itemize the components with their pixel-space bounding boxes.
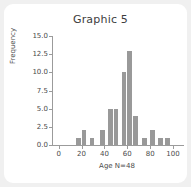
x-axis-tick-label: 80 — [138, 150, 162, 158]
histogram-bar — [158, 138, 163, 145]
y-axis-tick-label: 7.5 — [4, 87, 48, 95]
x-axis-tick-mark — [82, 146, 83, 149]
x-axis-tick-mark — [173, 146, 174, 149]
plot-area — [53, 36, 181, 145]
histogram-bar — [90, 138, 95, 145]
histogram-bar — [127, 51, 132, 145]
y-axis-tick-label: 5.0 — [4, 105, 48, 113]
x-axis-tick-mark — [127, 146, 128, 149]
x-axis-line — [52, 145, 184, 146]
y-axis-label: Frequency — [9, 11, 17, 81]
y-axis-tick-mark — [49, 109, 52, 110]
histogram-bar — [122, 72, 127, 145]
y-axis-tick-mark — [49, 91, 52, 92]
x-axis-tick-label: 100 — [161, 150, 185, 158]
y-axis-tick-label: 0.0 — [4, 141, 48, 149]
chart-card: Graphic 5 0.02.55.07.510.012.515.0 Frequ… — [4, 4, 187, 183]
x-axis-tick-mark — [104, 146, 105, 149]
histogram-bar — [142, 138, 147, 145]
y-axis-tick-mark — [49, 54, 52, 55]
histogram-bar — [165, 138, 170, 145]
x-axis-tick-mark — [150, 146, 151, 149]
x-axis-tick-label: 20 — [70, 150, 94, 158]
histogram-chart: Graphic 5 0.02.55.07.510.012.515.0 Frequ… — [4, 4, 187, 183]
x-axis-tick-label: 0 — [47, 150, 71, 158]
y-axis-tick-mark — [49, 145, 52, 146]
histogram-bar — [133, 116, 138, 145]
histogram-bar — [100, 130, 105, 145]
x-axis-tick-label: 60 — [115, 150, 139, 158]
y-axis-tick-mark — [49, 72, 52, 73]
histogram-bar — [82, 130, 87, 145]
y-axis-tick-label: 2.5 — [4, 123, 48, 131]
y-axis-tick-mark — [49, 127, 52, 128]
histogram-bar — [114, 109, 119, 145]
histogram-bar — [108, 109, 113, 145]
x-axis-label: Age N=48 — [53, 162, 181, 170]
histogram-bar — [76, 138, 81, 145]
x-axis-tick-label: 40 — [92, 150, 116, 158]
histogram-bar — [150, 130, 155, 145]
y-axis-tick-mark — [49, 36, 52, 37]
x-axis-tick-mark — [59, 146, 60, 149]
